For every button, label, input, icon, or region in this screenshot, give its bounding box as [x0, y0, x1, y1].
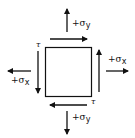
sigma-y-bottom-label: +σy [72, 112, 91, 124]
tau-top-left-label: τ [36, 40, 41, 49]
element-square [46, 48, 92, 97]
stress-element-diagram: +σy τ +σx +σx τ +σy [0, 0, 135, 138]
sigma-x-right-label: +σx [108, 54, 127, 66]
sigma-y-top-label: +σy [72, 18, 91, 30]
tau-bottom-right-label: τ [91, 97, 96, 106]
sigma-x-left-label: +σx [11, 75, 30, 87]
